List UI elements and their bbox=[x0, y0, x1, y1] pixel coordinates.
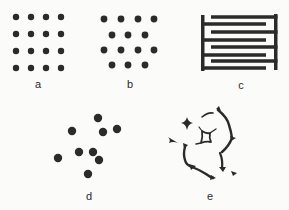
foam-spike-left bbox=[168, 137, 178, 143]
panel-c-interdigitated-comb bbox=[201, 14, 278, 71]
particle-dot bbox=[99, 128, 107, 136]
comb-right-finger bbox=[211, 30, 278, 34]
foam-star-vertex bbox=[181, 117, 193, 130]
particle-dot bbox=[58, 65, 64, 71]
particle-dot bbox=[151, 47, 158, 54]
particle-dot bbox=[75, 148, 83, 156]
particle-dot bbox=[151, 16, 158, 23]
comb-left-finger bbox=[201, 22, 266, 26]
foam-border-left bbox=[184, 147, 213, 178]
comb-right-finger bbox=[211, 15, 278, 19]
particle-dot bbox=[58, 31, 64, 37]
particle-dot bbox=[109, 32, 116, 39]
particle-dot bbox=[101, 47, 108, 54]
foam-spike-bottom-right bbox=[231, 171, 237, 176]
particle-dot bbox=[28, 14, 34, 20]
particle-dot bbox=[68, 127, 76, 135]
panel-a-square-lattice bbox=[13, 14, 64, 71]
particle-dot bbox=[135, 47, 142, 54]
panel-label-c: c bbox=[238, 80, 244, 91]
particle-dot bbox=[43, 31, 49, 37]
particle-dot bbox=[125, 62, 132, 69]
particle-dot bbox=[58, 48, 64, 54]
comb-left-finger bbox=[201, 66, 266, 70]
panel-label-d: d bbox=[86, 191, 92, 202]
panel-b-hexagonal-lattice bbox=[101, 16, 158, 69]
particle-dot bbox=[118, 16, 125, 23]
particle-dot bbox=[118, 47, 125, 54]
panel-label-a: a bbox=[35, 79, 41, 90]
particle-dot bbox=[142, 32, 149, 39]
comb-right-finger bbox=[211, 45, 278, 49]
particle-dot bbox=[101, 16, 108, 23]
particle-dot bbox=[28, 48, 34, 54]
foam-border-right-lower bbox=[220, 153, 222, 168]
panel-label-b: b bbox=[127, 79, 133, 90]
panel-e-foam-network bbox=[168, 106, 237, 180]
particle-dot bbox=[58, 14, 64, 20]
particle-dot bbox=[13, 48, 19, 54]
particle-dot bbox=[89, 148, 97, 156]
figure: a b c d e bbox=[0, 0, 289, 210]
particle-dot bbox=[94, 114, 102, 122]
particle-dot bbox=[43, 14, 49, 20]
particle-dot bbox=[13, 65, 19, 71]
panel-d-random-particles bbox=[54, 114, 121, 178]
particle-dot bbox=[84, 170, 92, 178]
particle-dot bbox=[13, 31, 19, 37]
figure-canvas bbox=[0, 0, 289, 210]
particle-dot bbox=[54, 154, 62, 162]
comb-left-finger bbox=[201, 53, 266, 57]
particle-dot bbox=[142, 62, 149, 69]
particle-dot bbox=[28, 31, 34, 37]
particle-dot bbox=[13, 14, 19, 20]
panel-label-e: e bbox=[207, 191, 213, 202]
comb-left-finger bbox=[201, 38, 266, 42]
foam-border-right-arc bbox=[218, 110, 232, 152]
particle-dot bbox=[135, 16, 142, 23]
particle-dot bbox=[28, 65, 34, 71]
particle-dot bbox=[125, 32, 132, 39]
particle-dot bbox=[43, 65, 49, 71]
particle-dot bbox=[109, 62, 116, 69]
particle-dot bbox=[113, 125, 121, 133]
particle-dot bbox=[95, 156, 103, 164]
foam-border-top bbox=[202, 113, 213, 117]
comb-right-finger bbox=[211, 59, 278, 63]
particle-dot bbox=[43, 48, 49, 54]
